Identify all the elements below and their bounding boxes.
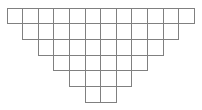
grid-cell xyxy=(116,71,132,87)
grid-cell xyxy=(54,8,70,24)
grid-cell xyxy=(101,8,117,24)
grid-cell xyxy=(101,24,117,40)
grid-cell xyxy=(69,39,85,55)
grid-cell xyxy=(69,24,85,40)
grid-cell xyxy=(132,39,148,55)
grid-cell xyxy=(101,39,117,55)
grid-cell xyxy=(116,39,132,55)
grid-cell xyxy=(85,87,101,103)
grid-cell xyxy=(69,71,85,87)
grid-cell xyxy=(38,24,54,40)
grid-cell xyxy=(69,8,85,24)
grid-cell xyxy=(101,87,117,103)
grid-cell xyxy=(147,24,163,40)
grid-cell xyxy=(23,24,39,40)
grid-cell xyxy=(101,71,117,87)
grid-cell xyxy=(116,55,132,71)
grid-cell xyxy=(7,8,23,24)
grid-cell xyxy=(85,8,101,24)
stepped-pyramid-grid xyxy=(0,0,202,110)
grid-cell xyxy=(85,71,101,87)
figure-canvas xyxy=(0,0,202,110)
grid-cell xyxy=(116,8,132,24)
grid-cell xyxy=(163,24,179,40)
grid-cell xyxy=(54,55,70,71)
grid-cell xyxy=(147,8,163,24)
grid-cell xyxy=(38,39,54,55)
grid-cell xyxy=(23,8,39,24)
grid-cell xyxy=(163,8,179,24)
grid-cell xyxy=(85,39,101,55)
grid-cell xyxy=(132,24,148,40)
grid-cell xyxy=(38,8,54,24)
grid-cell xyxy=(54,39,70,55)
grid-cell xyxy=(101,55,117,71)
grid-cell xyxy=(132,8,148,24)
grid-cell xyxy=(69,55,85,71)
grid-cell xyxy=(179,8,195,24)
grid-cell xyxy=(147,39,163,55)
grid-cell xyxy=(85,55,101,71)
grid-cell xyxy=(54,24,70,40)
grid-cell xyxy=(132,55,148,71)
grid-cell xyxy=(85,24,101,40)
grid-cell xyxy=(116,24,132,40)
